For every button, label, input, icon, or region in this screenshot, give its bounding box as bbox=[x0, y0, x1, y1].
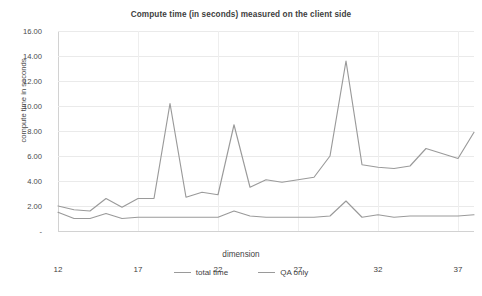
y-tick-0: - bbox=[0, 227, 42, 236]
y-tick-12: 12.00 bbox=[0, 77, 42, 86]
legend-line-icon bbox=[258, 272, 275, 273]
y-tick-10: 10.00 bbox=[0, 102, 42, 111]
legend-item-0[interactable]: total time bbox=[174, 268, 228, 277]
y-tick-2: 2.00 bbox=[0, 202, 42, 211]
legend-label: total time bbox=[196, 268, 228, 277]
legend-label: QA only bbox=[280, 268, 308, 277]
y-tick-16: 16.00 bbox=[0, 27, 42, 36]
chart-legend: total timeQA only bbox=[0, 268, 482, 277]
plot-area: 16.0014.0012.0010.008.006.004.002.00- 12… bbox=[58, 31, 474, 231]
y-tick-4: 4.00 bbox=[0, 177, 42, 186]
compute-time-line-chart: Compute time (in seconds) measured on th… bbox=[0, 0, 482, 296]
legend-line-icon bbox=[174, 272, 191, 273]
chart-title: Compute time (in seconds) measured on th… bbox=[0, 10, 482, 19]
y-tick-6: 6.00 bbox=[0, 152, 42, 161]
gridline-y-0 bbox=[58, 231, 474, 232]
y-tick-8: 8.00 bbox=[0, 127, 42, 136]
x-axis-label: dimension bbox=[0, 250, 482, 259]
series-lines bbox=[58, 31, 474, 231]
legend-item-1[interactable]: QA only bbox=[258, 268, 308, 277]
y-tick-14: 14.00 bbox=[0, 52, 42, 61]
series-line-0 bbox=[58, 61, 474, 211]
series-line-1 bbox=[58, 201, 474, 219]
